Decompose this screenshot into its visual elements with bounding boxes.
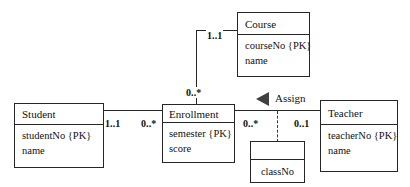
assign-direction-triangle-icon	[256, 92, 269, 106]
multiplicity-enrollment-teacher-end: 0..*	[242, 118, 259, 129]
class-name-student: Student	[15, 104, 103, 125]
class-attribute: classNo	[261, 166, 294, 177]
multiplicity-enrollment-student-end: 0..*	[140, 118, 157, 129]
class-attribute: name	[328, 143, 397, 158]
class-box-course[interactable]: Course courseNo {PK} name	[237, 12, 310, 77]
class-attribute: courseNo {PK}	[245, 38, 309, 53]
class-name-teacher: Teacher	[321, 101, 397, 125]
class-box-student[interactable]: Student studentNo {PK} name	[14, 103, 104, 168]
class-attribute: teacherNo {PK}	[328, 128, 397, 143]
class-box-classno[interactable]: classNo	[250, 141, 305, 183]
class-attribute: score	[169, 141, 234, 156]
class-name-enrollment: Enrollment	[163, 105, 234, 123]
class-box-enrollment[interactable]: Enrollment semester {PK} score	[162, 104, 235, 163]
class-attribute: name	[22, 143, 103, 158]
class-name-classno	[251, 142, 304, 160]
class-attributes-student: studentNo {PK} name	[15, 125, 103, 167]
multiplicity-course-end: 1..1	[206, 30, 223, 41]
multiplicity-student-end: 1..1	[104, 118, 121, 129]
multiplicity-teacher-end: 0..1	[293, 118, 310, 129]
class-attribute: studentNo {PK}	[22, 128, 103, 143]
class-attributes-classno: classNo	[251, 160, 304, 183]
class-attribute: name	[245, 53, 309, 68]
class-attributes-course: courseNo {PK} name	[238, 35, 309, 76]
multiplicity-enrollment-course-end: 0..*	[185, 87, 202, 98]
class-attributes-teacher: teacherNo {PK} name	[321, 125, 397, 173]
class-box-teacher[interactable]: Teacher teacherNo {PK} name	[320, 100, 398, 172]
class-attribute: semester {PK}	[169, 126, 234, 141]
uml-diagram-canvas: Course courseNo {PK} name Student studen…	[0, 0, 410, 187]
class-name-course: Course	[238, 13, 309, 35]
class-attributes-enrollment: semester {PK} score	[163, 123, 234, 164]
association-class-dashed-link	[277, 111, 278, 142]
association-label-assign: Assign	[275, 92, 306, 104]
association-line-student-enrollment	[103, 110, 163, 111]
